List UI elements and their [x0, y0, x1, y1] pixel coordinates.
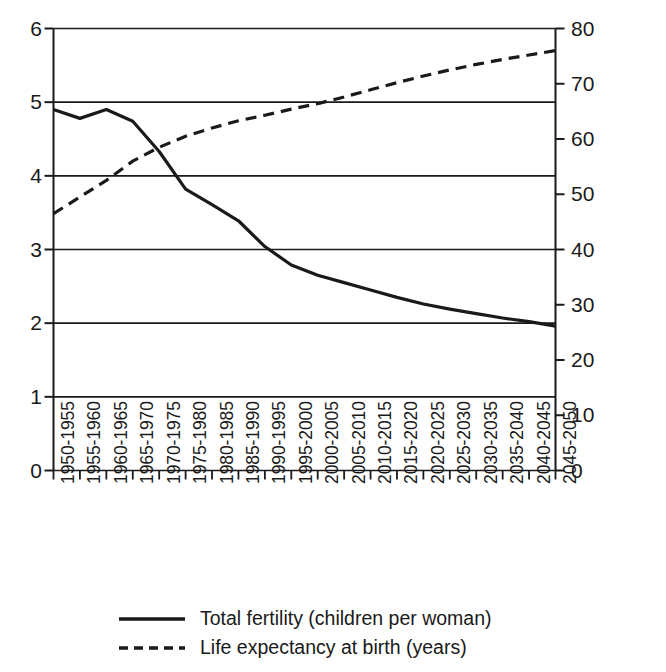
x-axis-tick-label: 1970-1975	[166, 401, 184, 484]
legend-label-total-fertility: Total fertility (children per woman)	[200, 609, 492, 629]
legend-item-total-fertility: Total fertility (children per woman)	[118, 604, 578, 633]
left-axis-tick-label: 6	[12, 18, 42, 39]
x-axis-tick-label: 2045-2050	[562, 401, 580, 484]
x-axis-tick-label: 1950-1955	[60, 401, 78, 484]
x-axis-tick-label: 1955-1960	[86, 401, 104, 484]
x-axis-tick-label: 1995-2000	[298, 401, 316, 484]
x-axis-tick-label: 2015-2020	[403, 401, 421, 484]
left-axis-tick-label: 0	[12, 460, 42, 481]
right-axis-tick-label: 80	[571, 18, 611, 39]
x-axis-tick-label: 1975-1980	[192, 401, 210, 484]
series-line-total-fertility	[54, 110, 556, 327]
left-axis-tick-label: 4	[12, 165, 42, 186]
left-axis-tick-label: 2	[12, 312, 42, 333]
x-axis-tick-label: 2025-2030	[456, 401, 474, 484]
x-axis-tick-label: 1960-1965	[113, 401, 131, 484]
right-axis-tick-label: 60	[571, 128, 611, 149]
x-axis-tick-label: 1980-1985	[219, 401, 237, 484]
chart-canvas	[0, 0, 666, 672]
dashed-line-swatch	[118, 641, 186, 655]
x-axis-tick-label: 1965-1970	[139, 401, 157, 484]
x-axis-tick-label: 2020-2025	[430, 401, 448, 484]
left-axis-tick-label: 5	[12, 91, 42, 112]
legend-label-life-expectancy: Life expectancy at birth (years)	[200, 638, 467, 658]
data-series	[54, 51, 556, 327]
x-axis-tick-label: 1985-1990	[245, 401, 263, 484]
right-axis-tick-label: 50	[571, 183, 611, 204]
x-axis-tick-label: 2035-2040	[509, 401, 527, 484]
x-axis-tick-label: 2010-2015	[377, 401, 395, 484]
right-axis-tick-label: 30	[571, 294, 611, 315]
x-axis-tick-label: 2040-2045	[536, 401, 554, 484]
chart-legend: Total fertility (children per woman) Lif…	[118, 604, 578, 662]
solid-line-swatch	[118, 612, 186, 626]
legend-item-life-expectancy: Life expectancy at birth (years)	[118, 633, 578, 662]
chart-container: 0123456 01020304050607080 1950-19551955-…	[0, 0, 666, 672]
series-line-life-expectancy	[54, 51, 556, 214]
x-axis-tick-label: 2030-2035	[483, 401, 501, 484]
x-axis-tick-label: 2005-2010	[351, 401, 369, 484]
x-axis-tick-label: 1990-1995	[271, 401, 289, 484]
left-axis-tick-label: 1	[12, 386, 42, 407]
right-axis-tick-label: 40	[571, 239, 611, 260]
x-axis-tick-label: 2000-2005	[324, 401, 342, 484]
right-axis-tick-label: 20	[571, 349, 611, 370]
right-axis-tick-label: 70	[571, 73, 611, 94]
left-axis-tick-label: 3	[12, 239, 42, 260]
